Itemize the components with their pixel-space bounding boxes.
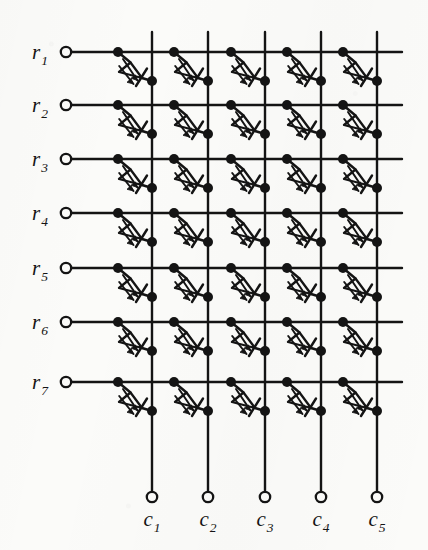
row-terminal-r7[interactable] [61,377,71,387]
led-r2-c3 [231,105,265,139]
column-terminal-c3[interactable] [260,492,270,502]
junction-dot-r3-c5-cathode [372,183,382,193]
junction-dot-r4-c5-anode [338,208,348,218]
row-terminal-r2[interactable] [61,100,71,110]
junction-dot-r3-c3-anode [226,154,236,164]
junction-dot-r5-c2-anode [169,263,179,273]
led-r4-c2 [174,213,208,247]
column-terminal-c4[interactable] [316,492,326,502]
junction-dot-group [113,47,382,416]
row-terminal-r4[interactable] [61,208,71,218]
led-r7-c3 [231,382,265,416]
junction-dot-r7-c1-anode [113,377,123,387]
junction-dot-r6-c3-cathode [260,346,270,356]
junction-dot-r5-c3-cathode [260,292,270,302]
junction-dot-r6-c1-cathode [147,346,157,356]
junction-dot-r2-c5-anode [338,100,348,110]
row-terminal-r5[interactable] [61,263,71,273]
led-r6-c2 [174,322,208,356]
junction-dot-r2-c1-cathode [147,129,157,139]
led-r7-c5 [343,382,377,416]
junction-dot-r3-c2-cathode [203,183,213,193]
row-label-group: r1r2r3r4r5r6r7 [32,40,49,398]
junction-dot-r3-c3-cathode [260,183,270,193]
junction-dot-r5-c1-anode [113,263,123,273]
column-terminal-c1[interactable] [147,492,157,502]
row-label-r7: r7 [32,370,49,398]
junction-dot-r4-c2-anode [169,208,179,218]
led-r4-c3 [231,213,265,247]
junction-dot-r6-c2-cathode [203,346,213,356]
led-r7-c1 [118,382,152,416]
junction-dot-r2-c2-anode [169,100,179,110]
junction-dot-r7-c5-cathode [372,406,382,416]
junction-dot-r3-c4-cathode [316,183,326,193]
junction-dot-r1-c5-anode [338,47,348,57]
junction-dot-r4-c3-cathode [260,237,270,247]
led-r5-c5 [343,268,377,302]
led-r6-c3 [231,322,265,356]
column-label-c2: c2 [199,507,216,535]
junction-dot-r4-c4-cathode [316,237,326,247]
junction-dot-r6-c3-anode [226,317,236,327]
led-r3-c4 [287,159,321,193]
junction-dot-r1-c2-cathode [203,76,213,86]
junction-dot-r4-c5-cathode [372,237,382,247]
junction-dot-r7-c1-cathode [147,406,157,416]
row-label-r1: r1 [32,40,48,68]
led-r4-c1 [118,213,152,247]
led-r3-c2 [174,159,208,193]
junction-dot-r7-c2-anode [169,377,179,387]
junction-dot-r2-c5-cathode [372,129,382,139]
row-terminal-r3[interactable] [61,154,71,164]
led-r2-c1 [118,105,152,139]
junction-dot-r2-c1-anode [113,100,123,110]
junction-dot-r2-c2-cathode [203,129,213,139]
led-r5-c2 [174,268,208,302]
column-terminal-c5[interactable] [372,492,382,502]
junction-dot-r5-c2-cathode [203,292,213,302]
column-terminal-c2[interactable] [203,492,213,502]
led-r3-c5 [343,159,377,193]
junction-dot-r1-c4-cathode [316,76,326,86]
led-r5-c3 [231,268,265,302]
led-r6-c1 [118,322,152,356]
led-r1-c1 [118,52,152,86]
column-terminal-group [147,492,382,502]
led-r7-c4 [287,382,321,416]
row-label-r2: r2 [32,93,48,121]
junction-dot-r1-c3-cathode [260,76,270,86]
junction-dot-r5-c4-cathode [316,292,326,302]
junction-dot-r7-c4-cathode [316,406,326,416]
junction-dot-r2-c4-cathode [316,129,326,139]
led-r1-c3 [231,52,265,86]
junction-dot-r5-c1-cathode [147,292,157,302]
row-label-r5: r5 [32,256,48,284]
led-r1-c5 [343,52,377,86]
junction-dot-r5-c3-anode [226,263,236,273]
led-r2-c4 [287,105,321,139]
led-r4-c5 [343,213,377,247]
junction-dot-r3-c1-anode [113,154,123,164]
column-label-c3: c3 [256,507,273,535]
junction-dot-r6-c4-anode [282,317,292,327]
junction-dot-r2-c4-anode [282,100,292,110]
junction-dot-r3-c1-cathode [147,183,157,193]
row-terminal-r6[interactable] [61,317,71,327]
junction-dot-r1-c5-cathode [372,76,382,86]
junction-dot-r7-c5-anode [338,377,348,387]
junction-dot-r3-c2-anode [169,154,179,164]
led-r2-c5 [343,105,377,139]
junction-dot-r1-c1-anode [113,47,123,57]
junction-dot-r4-c3-anode [226,208,236,218]
junction-dot-r1-c3-anode [226,47,236,57]
junction-dot-r1-c1-cathode [147,76,157,86]
junction-dot-r4-c1-anode [113,208,123,218]
junction-dot-r6-c2-anode [169,317,179,327]
junction-dot-r4-c2-cathode [203,237,213,247]
led-r5-c4 [287,268,321,302]
row-terminal-r1[interactable] [61,47,71,57]
junction-dot-r2-c3-anode [226,100,236,110]
junction-dot-r3-c4-anode [282,154,292,164]
led-r6-c4 [287,322,321,356]
